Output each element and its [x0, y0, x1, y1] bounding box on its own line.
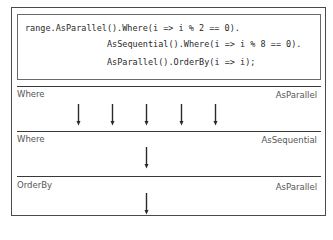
down-arrow-icon — [143, 193, 150, 215]
code-line-2: AsSequential().Where(i => i % 8 == 0). — [107, 39, 301, 49]
stage-3-mode-label: AsParallel — [276, 182, 317, 192]
stage-2-divider — [17, 131, 321, 132]
stage-1-divider — [17, 86, 321, 87]
code-line-1: range.AsParallel().Where(i => i % 2 == 0… — [25, 23, 240, 33]
down-arrow-icon — [212, 104, 219, 126]
stage-2-operator-label: Where — [17, 134, 45, 144]
stage-1-operator-label: Where — [17, 89, 45, 99]
down-arrow-icon — [143, 104, 150, 126]
stage-2-mode-label: AsSequential — [261, 135, 317, 145]
down-arrow-icon — [75, 104, 82, 126]
down-arrow-icon — [109, 104, 116, 126]
stage-3-operator-label: OrderBy — [17, 180, 52, 190]
stage-3-divider — [17, 176, 321, 177]
code-line-3: AsParallel().OrderBy(i => i); — [107, 57, 255, 67]
down-arrow-icon — [178, 104, 185, 126]
down-arrow-icon — [143, 147, 150, 169]
stage-1-mode-label: AsParallel — [276, 90, 317, 100]
